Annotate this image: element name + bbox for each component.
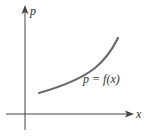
curve-label: p = f(x) bbox=[82, 72, 120, 86]
function-graph: p x p = f(x) bbox=[0, 0, 146, 138]
y-axis bbox=[22, 5, 29, 130]
y-axis-label: p bbox=[29, 4, 36, 18]
x-axis-label: x bbox=[135, 107, 142, 121]
